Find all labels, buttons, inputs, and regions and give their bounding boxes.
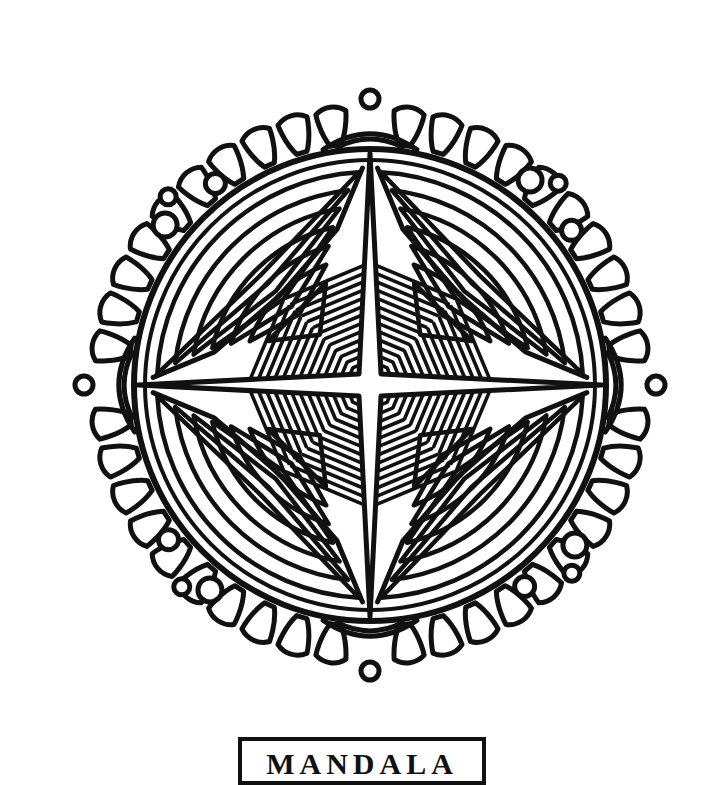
corner-dot	[562, 220, 582, 240]
petal-junction-dot	[75, 376, 93, 394]
corner-dot	[198, 578, 222, 602]
petal-junction-dot	[361, 662, 379, 680]
mandala-artwork	[36, 36, 703, 730]
corner-dot	[158, 530, 178, 550]
corner-dot	[205, 173, 225, 193]
corner-dot	[564, 565, 580, 581]
corner-dot	[515, 577, 535, 597]
petal-junction-dot	[647, 376, 665, 394]
petal-junction-dot	[361, 90, 379, 108]
mandala-svg	[36, 36, 703, 730]
corner-dot	[153, 213, 177, 237]
corner-dot	[550, 175, 566, 191]
corner-dot	[518, 168, 542, 192]
caption-label: MANDALA	[242, 749, 482, 779]
corner-dot	[174, 579, 190, 595]
corner-dot	[160, 189, 176, 205]
caption-box: MANDALA	[238, 737, 486, 785]
corner-dot	[563, 533, 587, 557]
